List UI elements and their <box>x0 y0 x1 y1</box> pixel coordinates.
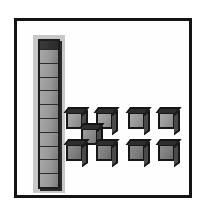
cube-column-top-cap <box>40 41 58 50</box>
cube-grid-top-left[interactable] <box>128 112 145 129</box>
cube-column-segment[interactable] <box>40 50 58 64</box>
cube-column[interactable] <box>38 39 60 189</box>
cube-grid-bottom-left[interactable] <box>128 144 145 161</box>
cube-plus-bottom-right[interactable] <box>96 144 113 161</box>
cube-plus-bottom-left[interactable] <box>66 144 83 161</box>
cube-column-segment[interactable] <box>40 64 58 78</box>
cube-column-segment[interactable] <box>40 147 58 161</box>
cube-column-segment[interactable] <box>40 91 58 105</box>
cube-column-segment[interactable] <box>40 160 58 174</box>
cube-column-segment[interactable] <box>40 133 58 147</box>
cube-column-segment[interactable] <box>40 119 58 133</box>
cube-grid-top-right[interactable] <box>158 112 175 129</box>
cube-column-segment[interactable] <box>40 78 58 92</box>
cube-grid-bottom-right[interactable] <box>158 144 175 161</box>
figure-frame <box>14 18 192 198</box>
figure-canvas <box>17 21 189 195</box>
cube-column-segment[interactable] <box>40 105 58 119</box>
cube-column-segment[interactable] <box>40 174 58 187</box>
